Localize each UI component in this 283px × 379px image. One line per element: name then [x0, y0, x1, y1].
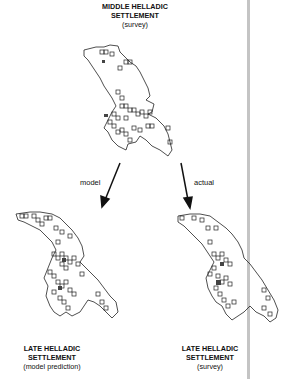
- title-line: SETTLEMENT: [160, 353, 260, 362]
- settlement-maps: [0, 0, 283, 379]
- title-subline: (model prediction): [2, 362, 102, 371]
- actual-arrowhead-icon: [184, 197, 192, 208]
- late-helladic-model-title: LATE HELLADIC SETTLEMENT (model predicti…: [2, 344, 102, 371]
- actual-arrow-label: actual: [194, 178, 214, 187]
- model-prediction-map-outline: [16, 212, 118, 318]
- model-arrow-icon: [105, 163, 120, 200]
- title-line: LATE HELLADIC: [160, 344, 260, 353]
- site-squares: [20, 50, 272, 316]
- title-subline: (survey): [160, 362, 260, 371]
- late-helladic-survey-title: LATE HELLADIC SETTLEMENT (survey): [160, 344, 260, 371]
- title-line: SETTLEMENT: [2, 353, 102, 362]
- model-arrow-label: model: [80, 178, 100, 187]
- title-line: LATE HELLADIC: [2, 344, 102, 353]
- dense-clusters: [58, 60, 224, 290]
- actual-arrow-icon: [181, 163, 188, 200]
- arrows: [101, 163, 192, 208]
- model-arrowhead-icon: [101, 196, 109, 207]
